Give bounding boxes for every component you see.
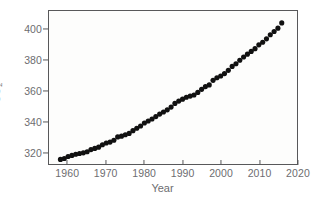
y-tick-label-360: 360	[24, 85, 42, 97]
y-tick-label-320: 320	[24, 147, 42, 159]
data-point	[252, 46, 257, 51]
x-tick-label-2010: 2010	[248, 167, 272, 179]
x-axis-title: Year	[0, 182, 325, 194]
x-tick-mark-1970	[105, 160, 106, 166]
y-tick-label-400: 400	[24, 23, 42, 35]
data-point	[169, 105, 174, 110]
x-tick-label-1960: 1960	[55, 167, 79, 179]
data-point	[226, 68, 231, 73]
x-tick-mark-1990	[182, 160, 183, 166]
x-tick-label-2020: 2020	[286, 167, 310, 179]
x-tick-mark-1960	[67, 160, 68, 166]
data-point	[264, 36, 269, 41]
y-tick-label-340: 340	[24, 116, 42, 128]
x-tick-label-1980: 1980	[132, 167, 156, 179]
x-tick-mark-2010	[259, 160, 260, 166]
data-point	[275, 26, 280, 31]
co2-keeling-curve-figure: 400 380 360 340 320 CO2 1960197019801990…	[0, 0, 325, 209]
data-point	[233, 61, 238, 66]
y-axis-title: CO2	[0, 83, 2, 104]
x-tick-label-1990: 1990	[171, 167, 195, 179]
y-axis-title-subscript: 2	[0, 83, 4, 87]
y-axis-tick-labels: 400 380 360 340 320	[0, 0, 42, 209]
x-tick-label-2000: 2000	[209, 167, 233, 179]
x-tick-mark-1980	[144, 160, 145, 166]
y-tick-label-380: 380	[24, 54, 42, 66]
data-points-layer	[49, 11, 297, 164]
x-tick-mark-2000	[221, 160, 222, 166]
data-point	[279, 20, 284, 25]
x-tick-label-1970: 1970	[94, 167, 118, 179]
plot-area	[48, 10, 298, 165]
x-tick-mark-2020	[297, 160, 298, 166]
data-point	[207, 82, 212, 87]
